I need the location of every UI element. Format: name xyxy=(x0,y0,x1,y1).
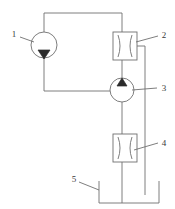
leader-line-2 xyxy=(136,36,158,42)
callout-label-5: 5 xyxy=(72,174,77,184)
schematic-diagram: 1 2 3 4 5 xyxy=(0,0,175,209)
nozzle-box-lower xyxy=(113,134,137,162)
leader-line-5 xyxy=(79,182,99,190)
callout-label-3: 3 xyxy=(162,83,167,93)
nozzle-box-upper xyxy=(113,32,137,60)
schematic-canvas: 1 2 3 4 5 xyxy=(0,0,175,209)
tank-vessel xyxy=(99,181,159,203)
callout-label-4: 4 xyxy=(162,138,167,148)
leader-line-3 xyxy=(132,88,157,90)
leader-line-4 xyxy=(134,143,158,150)
callout-label-1: 1 xyxy=(12,29,17,39)
callout-label-2: 2 xyxy=(162,30,167,40)
